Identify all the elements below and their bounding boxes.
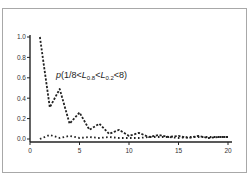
y-tick-label: 0.2 <box>17 115 26 122</box>
y-tick-label: 0.0 <box>17 135 26 142</box>
series-annotation: p(1/8<L0.8<L0.2<8) <box>55 70 127 81</box>
series-line-upper <box>40 37 228 138</box>
x-tick-label: 10 <box>125 147 133 154</box>
x-tick-label: 20 <box>224 147 232 154</box>
x-tick-label: 0 <box>28 147 32 154</box>
y-tick-label: 0.6 <box>17 74 26 81</box>
y-tick-label: 0.4 <box>17 95 26 102</box>
x-axis-ticks: 05101520 <box>28 142 232 154</box>
x-tick-label: 15 <box>175 147 183 154</box>
series-line-lower <box>40 135 228 139</box>
y-axis-ticks: 0.00.20.40.60.81.0 <box>17 33 30 142</box>
y-tick-label: 1.0 <box>17 33 26 40</box>
y-tick-label: 0.8 <box>17 54 26 61</box>
line-chart: 0.00.20.40.60.81.0 05101520 p(1/8<L0.8<L… <box>0 0 251 180</box>
x-tick-label: 5 <box>78 147 82 154</box>
data-series <box>40 37 228 139</box>
